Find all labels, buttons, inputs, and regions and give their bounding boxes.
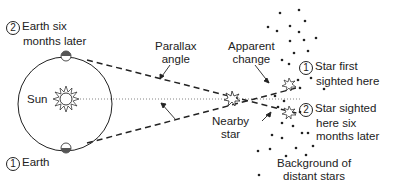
star-first-line1: Star first: [315, 60, 358, 72]
star-later-line2: here six: [299, 117, 356, 129]
nearby-star-label: Nearby star: [212, 115, 249, 141]
earth-later-number: 2: [6, 21, 20, 35]
star-later-number: 2: [299, 103, 313, 117]
sightline-later: [87, 60, 300, 114]
star-first-number: 1: [299, 61, 313, 75]
parallax-angle-label: Parallax angle: [155, 40, 197, 66]
earth-text: Earth: [22, 156, 50, 168]
earth-later-line1: Earth six: [22, 20, 67, 32]
earth-icon: [61, 143, 71, 153]
star-first-label: 1Star first sighted here: [299, 60, 379, 88]
sun-label: Sun: [27, 93, 47, 106]
background-line1: Background of: [277, 157, 351, 169]
apparent-change-label: Apparent change: [228, 40, 275, 66]
parallax-line1: Parallax: [155, 40, 197, 52]
distant-star-dot: [257, 9, 326, 177]
star-later-line3: months later: [299, 130, 379, 142]
apparent-line2: change: [232, 53, 270, 65]
nearby-line2: star: [221, 128, 240, 140]
nearby-line1: Nearby: [212, 115, 249, 127]
apparent-line1: Apparent: [228, 40, 275, 52]
parallax-line2: angle: [162, 53, 190, 65]
earth-number: 1: [6, 157, 20, 171]
star-first-line2: sighted here: [299, 75, 379, 87]
earth-icon-later: [61, 51, 71, 61]
earth-later-label: 2Earth six months later: [6, 20, 86, 48]
star-later-line1: Star sighted: [315, 102, 376, 114]
sun-icon: [53, 86, 79, 112]
background-line2: distant stars: [283, 170, 345, 182]
earth-label: 1Earth: [6, 156, 50, 171]
background-stars-label: Background of distant stars: [277, 157, 351, 183]
parallax-angle-arrows: [160, 65, 176, 120]
earth-later-line2: months later: [6, 35, 86, 47]
apparent-change-arrows: [255, 65, 271, 121]
star-later-label: 2Star sighted here six months later: [299, 102, 379, 143]
